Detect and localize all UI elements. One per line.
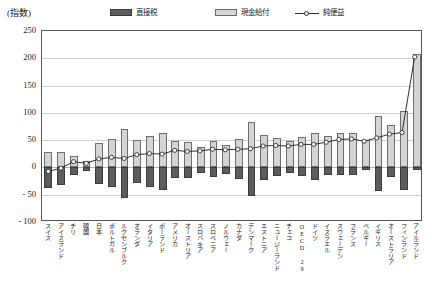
y-tick-label: 150 — [23, 80, 36, 90]
x-tick-label: ポルトガル — [108, 223, 115, 253]
net-benefit-marker — [375, 136, 379, 140]
x-tick-label: オーストラリア — [387, 223, 394, 265]
x-tick-label: イスラエル — [323, 223, 330, 253]
net-benefit-marker — [97, 157, 101, 161]
net-benefit-marker — [160, 152, 164, 156]
x-tick-label: チリ — [69, 223, 76, 235]
net-benefit-marker — [59, 166, 63, 170]
net-benefit-marker — [324, 140, 328, 144]
net-benefit-marker — [122, 156, 126, 160]
y-tick-label: 50 — [28, 134, 37, 144]
x-tick-label: イギリス — [374, 223, 381, 247]
x-tick-label: カナダ — [235, 223, 242, 241]
plot-area — [41, 30, 422, 221]
x-tick-label: スウェーデン — [336, 223, 343, 259]
net-benefit-marker — [261, 144, 265, 148]
y-tick-label: - 50 — [23, 189, 36, 199]
legend-line-marker-icon — [295, 9, 319, 17]
y-tick-label: 200 — [23, 52, 36, 62]
x-tick-label: アイルランド — [412, 223, 419, 259]
x-tick-label: スロベニア — [209, 223, 216, 253]
x-tick-label: エストニア — [260, 223, 267, 253]
x-tick-label: ルクセンブルク — [120, 223, 127, 265]
net-benefit-marker — [400, 130, 404, 134]
net-benefit-marker — [223, 148, 227, 152]
x-tick-label: イタリア — [146, 223, 153, 247]
x-tick-label: スイス — [44, 223, 51, 241]
net-benefit-marker — [349, 137, 353, 141]
chart-legend: 直接税 現金給付 純便益 — [0, 6, 432, 22]
y-tick-label: - 100 — [18, 216, 36, 226]
x-tick-label: スロバキア — [196, 223, 203, 253]
net-benefit-marker — [299, 142, 303, 146]
x-tick-label: ニュージーランド — [273, 223, 280, 271]
net-benefit-marker — [286, 144, 290, 148]
legend-item-net-benefit: 純便益 — [295, 9, 344, 17]
x-tick-label: ベルギー — [362, 223, 369, 247]
net-benefit-marker — [173, 148, 177, 152]
x-tick-label: デンマーク — [247, 223, 254, 253]
net-benefit-marker — [210, 147, 214, 151]
net-benefit-marker — [362, 139, 366, 143]
x-tick-label: 日本 — [95, 223, 102, 235]
y-axis-tick-labels: 250200150100500- 50- 100 — [0, 30, 39, 221]
legend-label-cash-benefit: 現金給付 — [241, 9, 269, 17]
x-tick-label: ポーランド — [158, 223, 165, 253]
net-benefit-polyline — [48, 57, 414, 171]
net-benefit-marker — [71, 160, 75, 164]
y-tick-label: 250 — [23, 25, 36, 35]
net-benefit-marker — [185, 149, 189, 153]
legend-label-net-benefit: 純便益 — [323, 9, 344, 17]
net-benefit-marker — [274, 143, 278, 147]
net-benefit-marker — [109, 155, 113, 159]
y-tick-label: 100 — [23, 107, 36, 117]
x-tick-label: フランス — [349, 223, 356, 247]
net-benefit-marker — [46, 169, 50, 173]
net-benefit-marker — [312, 142, 316, 146]
x-tick-label: 韓国 — [82, 223, 89, 235]
net-benefit-marker — [84, 161, 88, 165]
net-benefit-marker — [236, 147, 240, 151]
x-tick-label: OECD 29 — [298, 223, 305, 272]
legend-swatch-dark — [110, 9, 132, 16]
x-tick-label: フィンランド — [400, 223, 407, 259]
x-tick-label: オランダ — [133, 223, 140, 247]
x-tick-label: アメリカ — [171, 223, 178, 247]
x-tick-label: ノルウェー — [222, 223, 229, 253]
net-benefit-marker — [413, 55, 417, 59]
net-benefit-line — [42, 31, 421, 220]
net-benefit-marker — [198, 149, 202, 153]
x-tick-label: チェコ — [285, 223, 292, 241]
net-benefit-marker — [387, 132, 391, 136]
legend-item-direct-tax: 直接税 — [110, 9, 157, 17]
x-tick-label: アイスランド — [57, 223, 64, 259]
x-tick-label: オーストリア — [184, 223, 191, 259]
net-benefit-marker — [135, 153, 139, 157]
legend-label-direct-tax: 直接税 — [136, 9, 157, 17]
legend-swatch-light — [215, 9, 237, 16]
net-benefit-marker — [337, 137, 341, 141]
x-tick-label: ドイツ — [311, 223, 318, 241]
net-benefit-marker — [147, 152, 151, 156]
y-tick-label: 0 — [32, 161, 36, 171]
x-axis-tick-labels: スイスアイスランドチリ韓国日本ポルトガルルクセンブルクオランダイタリアポーランド… — [41, 223, 422, 305]
chart-container: (指数) 直接税 現金給付 純便益 250200150100500- 50- 1… — [0, 0, 432, 305]
legend-item-cash-benefit: 現金給付 — [215, 9, 269, 17]
net-benefit-marker — [248, 147, 252, 151]
